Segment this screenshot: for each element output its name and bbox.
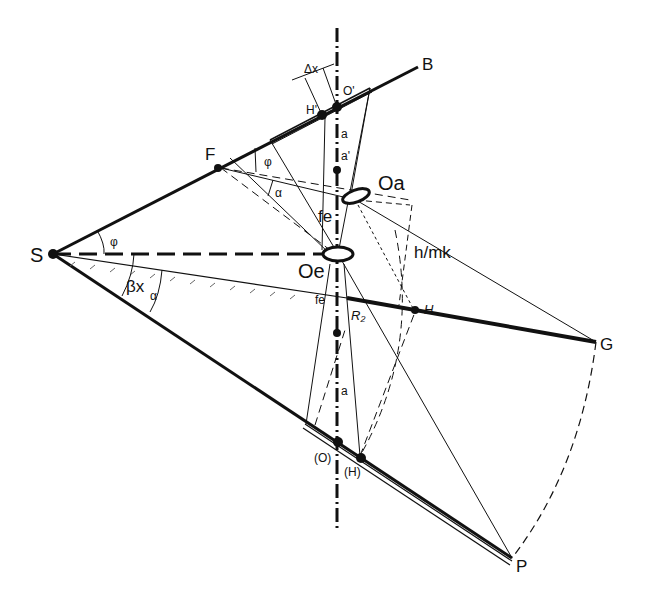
point-upper-axis: [333, 166, 341, 174]
label-H-prime: H': [306, 103, 317, 117]
label-h-over-mk: h/mk: [414, 243, 451, 262]
label-alpha-S: α: [150, 289, 157, 303]
label-a-upper: a: [341, 127, 348, 141]
arc-G-P: [512, 342, 596, 558]
label-Oe: Oe: [298, 260, 325, 282]
point-S: [48, 249, 58, 259]
label-delta-x: Δx: [304, 62, 318, 76]
lens-Oe: [323, 247, 353, 261]
point-lower-axis: [333, 329, 341, 337]
label-O-prime: O': [343, 84, 355, 98]
photogrammetry-diagram: S F B G P H H' O' (O) (H) Oa Oe R₂ Δx a …: [0, 0, 645, 597]
label-a-prime-upper: a': [341, 149, 350, 163]
label-a-lower: a: [341, 384, 348, 398]
label-G: G: [600, 335, 613, 354]
label-P: P: [516, 557, 527, 576]
lens-Oa: [341, 186, 371, 207]
label-fe-upper: fe: [318, 207, 332, 226]
point-F: [214, 164, 222, 172]
label-H-paren: (H): [344, 465, 361, 479]
label-fe-lower: fe: [315, 293, 325, 307]
label-Oa: Oa: [378, 172, 406, 194]
point-H: [411, 306, 419, 314]
label-B: B: [422, 55, 433, 74]
label-alpha-F: α: [275, 186, 282, 200]
line-S-P: [53, 254, 512, 558]
line-S-B: [53, 67, 418, 254]
point-H-paren: [356, 453, 366, 463]
label-phi-S: φ: [110, 235, 118, 249]
label-O-paren: (O): [314, 451, 331, 465]
label-phi-F: φ: [264, 155, 272, 169]
label-S: S: [30, 244, 43, 266]
label-H: H: [424, 302, 434, 317]
label-F: F: [205, 145, 215, 164]
point-O-paren: [333, 437, 343, 447]
label-R2: R₂: [351, 308, 365, 323]
label-beta-x: βx: [126, 277, 145, 296]
